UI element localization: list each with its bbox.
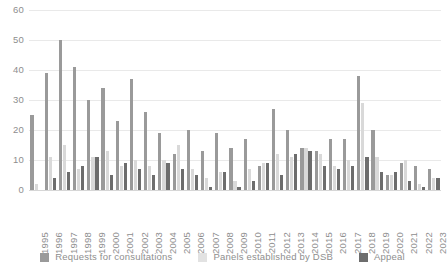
bar-group (242, 10, 256, 190)
bar-group (143, 10, 157, 190)
bar (30, 115, 33, 190)
bar (343, 139, 346, 190)
bar-group (157, 10, 171, 190)
bar (252, 181, 255, 190)
legend-label: Requests for consultations (55, 252, 172, 262)
bar (244, 139, 247, 190)
bar-group (128, 10, 142, 190)
bar (81, 166, 84, 190)
bar (177, 145, 180, 190)
bar (351, 166, 354, 190)
bar (404, 160, 407, 190)
bar (63, 145, 66, 190)
bar-group (313, 10, 327, 190)
bar (35, 184, 38, 190)
bar (380, 172, 383, 190)
legend-item[interactable]: Appeal (359, 252, 405, 262)
bar (120, 166, 123, 190)
bar (408, 181, 411, 190)
chart-legend: Requests for consultationsPanels establi… (0, 248, 445, 266)
bar-group (171, 10, 185, 190)
bar (95, 157, 98, 190)
legend-swatch-icon (198, 253, 207, 262)
bar (45, 73, 48, 190)
bar (294, 154, 297, 190)
bar (371, 130, 374, 190)
bar (49, 157, 52, 190)
bar (152, 175, 155, 190)
bar (191, 169, 194, 190)
bar (394, 172, 397, 190)
bar (414, 166, 417, 190)
bar (357, 76, 360, 190)
bar-group (57, 10, 71, 190)
bar (187, 130, 190, 190)
bar (59, 40, 62, 190)
legend-swatch-icon (40, 253, 49, 262)
y-axis-labels: 0102030405060 (0, 10, 24, 190)
plot-area (29, 10, 441, 190)
bar (215, 133, 218, 190)
bar-group (100, 10, 114, 190)
bar (110, 175, 113, 190)
bar (319, 154, 322, 190)
bar-group (114, 10, 128, 190)
bar (304, 148, 307, 190)
bar (390, 175, 393, 190)
bar (365, 157, 368, 190)
bar (276, 154, 279, 190)
bar-group (356, 10, 370, 190)
y-tick-label: 30 (13, 95, 24, 105)
bar (418, 184, 421, 190)
bar (138, 169, 141, 190)
bar-group (384, 10, 398, 190)
y-tick-label: 0 (19, 185, 24, 195)
bar (258, 166, 261, 190)
bar (101, 88, 104, 190)
y-tick-label: 60 (13, 5, 24, 15)
bar-group (214, 10, 228, 190)
axis-baseline (29, 190, 441, 191)
bar-group (327, 10, 341, 190)
bar-group (271, 10, 285, 190)
bar (201, 151, 204, 190)
y-tick-label: 40 (13, 65, 24, 75)
bar (195, 175, 198, 190)
bar-group (29, 10, 43, 190)
bar-group (228, 10, 242, 190)
legend-label: Panels established by DSB (213, 252, 333, 262)
bar (162, 160, 165, 190)
bar-group (43, 10, 57, 190)
bar-group (413, 10, 427, 190)
bar-group (285, 10, 299, 190)
bar (361, 103, 364, 190)
bar (209, 187, 212, 190)
bar (286, 130, 289, 190)
x-axis-labels: 1995199619971998199920002001200220032004… (29, 192, 441, 234)
bar (73, 67, 76, 190)
bar (400, 163, 403, 190)
bar (148, 166, 151, 190)
legend-item[interactable]: Requests for consultations (40, 252, 172, 262)
bar (272, 109, 275, 190)
bar-group (72, 10, 86, 190)
bar (315, 151, 318, 190)
bar (432, 178, 435, 190)
bar (181, 169, 184, 190)
y-tick-label: 20 (13, 125, 24, 135)
bar (323, 166, 326, 190)
bar (237, 187, 240, 190)
bar (333, 166, 336, 190)
bar (134, 160, 137, 190)
bar-group (185, 10, 199, 190)
bar (67, 172, 70, 190)
bar (229, 148, 232, 190)
bar (158, 133, 161, 190)
bar-group (256, 10, 270, 190)
bar (280, 175, 283, 190)
legend-item[interactable]: Panels established by DSB (198, 252, 333, 262)
bar-group (370, 10, 384, 190)
bar-group (398, 10, 412, 190)
bar (266, 163, 269, 190)
